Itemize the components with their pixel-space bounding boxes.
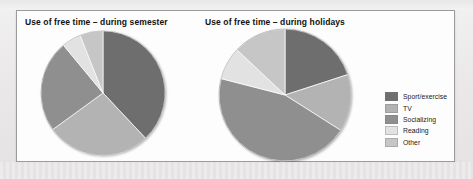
- legend-item-label: Socializing: [403, 116, 436, 123]
- pie-chart-holidays: [217, 27, 353, 163]
- legend-swatch: [385, 126, 398, 135]
- legend-item-label: Other: [403, 139, 420, 146]
- legend-item: Socializing: [385, 114, 447, 125]
- legend-swatch: [385, 115, 398, 124]
- legend-swatch: [385, 92, 398, 101]
- scanned-page-background: Use of free time – during semester Use o…: [0, 0, 473, 179]
- legend-item-label: TV: [403, 105, 412, 112]
- figure-panel: Use of free time – during semester Use o…: [16, 10, 455, 162]
- legend-item: Sport/exercise: [385, 91, 447, 102]
- legend-item: TV: [385, 102, 447, 113]
- chart-title-semester: Use of free time – during semester: [25, 17, 168, 27]
- legend-swatch: [385, 104, 398, 113]
- legend-item-label: Sport/exercise: [403, 93, 447, 100]
- legend-swatch: [385, 138, 398, 147]
- chart-title-holidays: Use of free time – during holidays: [205, 17, 345, 27]
- legend-item: Reading: [385, 125, 447, 136]
- chart-legend: Sport/exerciseTVSocializingReadingOther: [385, 91, 447, 148]
- pie-svg-semester: [39, 29, 167, 157]
- pie-svg-holidays: [217, 27, 353, 163]
- legend-item-label: Reading: [403, 127, 429, 134]
- pie-chart-semester: [39, 29, 167, 157]
- legend-item: Other: [385, 137, 447, 148]
